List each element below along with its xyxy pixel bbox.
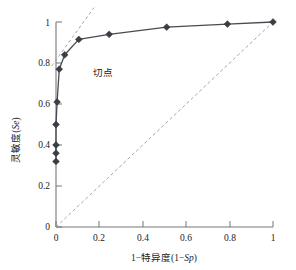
roc-point-marker [224, 21, 231, 28]
y-tick-label-1: 1 [45, 18, 50, 28]
y-tick-label-0: 0 [45, 222, 50, 232]
roc-point-marker [56, 66, 63, 73]
roc-data-point-markers [53, 19, 277, 165]
x-tick-label-0.6: 0.6 [180, 233, 192, 243]
x-axis-title-prefix: 1−特异度(1− [131, 252, 184, 264]
roc-curve-line [56, 22, 273, 161]
x-tick-label-0.8: 0.8 [224, 233, 236, 243]
roc-chart-svg: 0 0.2 0.4 0.6 0.8 1 0 0.2 0.4 0.6 0.8 1 [0, 0, 296, 270]
x-tick-label-0.4: 0.4 [137, 233, 149, 243]
roc-point-marker [163, 24, 170, 31]
x-axis-title-italic: Sp [184, 253, 194, 263]
cut-point-annotation: 切点 [93, 67, 113, 78]
roc-point-marker [106, 31, 113, 38]
y-axis-title-italic: Se [11, 121, 21, 130]
x-tick-label-1: 1 [271, 233, 276, 243]
y-tick-label-0.6: 0.6 [38, 99, 50, 109]
x-axis-title-suffix: ) [194, 253, 197, 264]
roc-point-marker [53, 158, 60, 165]
x-tick-label-0: 0 [54, 233, 59, 243]
x-axis-title: 1−特异度(1−Sp) [131, 252, 197, 264]
reference-diagonal-line [56, 22, 273, 227]
y-axis-title-prefix: 灵敏度( [10, 129, 22, 162]
tangent-dashed-line [52, 8, 94, 66]
chart-axes [56, 22, 273, 227]
y-axis-title-suffix: ) [11, 117, 22, 120]
y-tick-label-0.2: 0.2 [38, 181, 50, 191]
roc-point-marker [53, 150, 60, 157]
roc-point-marker [53, 121, 60, 128]
y-tick-label-0.8: 0.8 [38, 58, 50, 68]
roc-point-marker [53, 142, 60, 149]
roc-point-marker [270, 19, 277, 26]
x-tick-label-0.2: 0.2 [93, 233, 105, 243]
y-axis-title: 灵敏度(Se) [10, 117, 22, 162]
y-tick-label-0.4: 0.4 [38, 140, 50, 150]
roc-curve-figure: 0 0.2 0.4 0.6 0.8 1 0 0.2 0.4 0.6 0.8 1 [0, 0, 296, 270]
x-axis-title-text: 1−特异度(1−Sp) [131, 252, 197, 264]
x-axis-ticks: 0 0.2 0.4 0.6 0.8 1 [54, 221, 276, 243]
y-axis-title-text: 灵敏度(Se) [10, 117, 22, 162]
